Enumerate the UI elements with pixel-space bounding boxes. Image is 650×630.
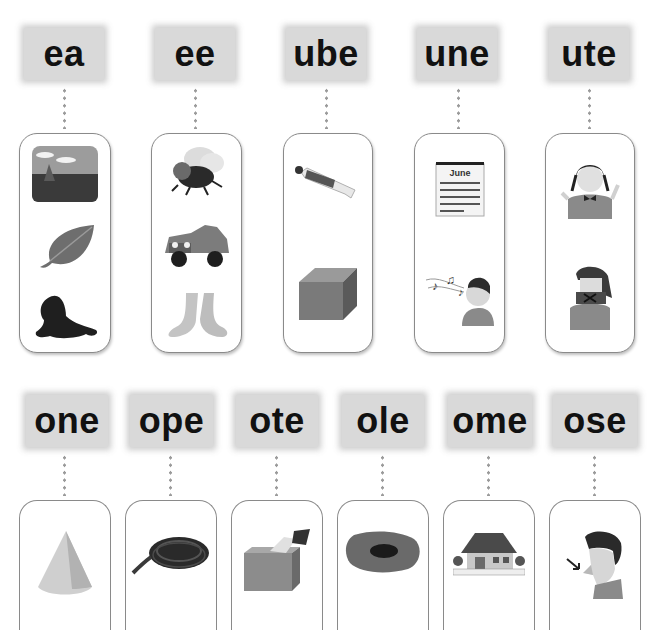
phonics-label-ome: ome [448, 395, 532, 447]
phonics-label-ube: ube [286, 28, 366, 80]
flute-girl-icon [562, 264, 618, 330]
picture-card-ute [545, 133, 635, 353]
picture-card-ome [443, 500, 535, 630]
phonics-label-ea: ea [24, 28, 104, 80]
dotted-connector [588, 87, 591, 129]
dotted-connector [194, 87, 197, 129]
picture-card-ose [549, 500, 641, 630]
phonics-label-ee: ee [155, 28, 235, 80]
phonics-label-ope: ope [130, 395, 213, 447]
cone-icon [36, 529, 94, 597]
dotted-connector [275, 454, 278, 496]
leaf-icon [34, 223, 96, 271]
feet-icon [164, 291, 230, 341]
jeep-icon [161, 219, 233, 269]
sea-icon [30, 144, 100, 204]
dotted-connector [63, 87, 66, 129]
hole-icon [344, 529, 422, 575]
bee-icon [166, 145, 228, 197]
picture-card-ea [19, 133, 111, 353]
rope-icon [131, 529, 211, 577]
calendar-month: June [449, 168, 470, 178]
phonics-label-ole: ole [342, 395, 424, 447]
phonics-label-ose: ose [553, 395, 637, 447]
calendar-icon: June [434, 160, 486, 218]
dotted-connector [169, 454, 172, 496]
dotted-connector [593, 454, 596, 496]
svg-text:♪: ♪ [432, 279, 438, 293]
picture-card-ope [125, 500, 217, 630]
house-icon [453, 529, 525, 577]
phonics-label-one: one [26, 395, 108, 447]
cube-icon [297, 264, 359, 322]
tube-icon [295, 164, 361, 204]
picture-card-ote [231, 500, 323, 630]
seal-icon [30, 290, 100, 342]
svg-text:♪: ♪ [458, 286, 464, 298]
singing-boy-icon: ♪ ♫ ♪ [424, 270, 496, 326]
phonics-label-ute: ute [549, 28, 629, 80]
dotted-connector [381, 454, 384, 496]
dotted-connector [325, 87, 328, 129]
picture-card-one [19, 500, 111, 630]
cute-girl-icon [558, 157, 622, 219]
nose-face-icon [563, 529, 627, 599]
picture-card-une: June ♪ ♫ ♪ [414, 133, 505, 353]
phonics-label-une: une [417, 28, 497, 80]
svg-text:♫: ♫ [446, 273, 455, 287]
phonics-label-ote: ote [236, 395, 318, 447]
picture-card-ube [283, 133, 373, 353]
ballot-box-icon [240, 529, 314, 593]
picture-card-ee [151, 133, 242, 353]
dotted-connector [487, 454, 490, 496]
dotted-connector [63, 454, 66, 496]
dotted-connector [457, 87, 460, 129]
picture-card-ole [337, 500, 429, 630]
